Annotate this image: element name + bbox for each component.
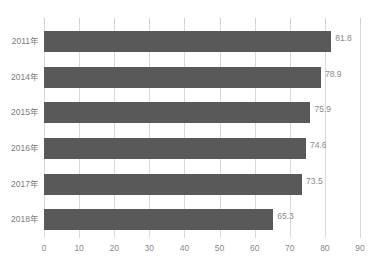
tick-mark — [360, 18, 361, 24]
y-axis-label: 2017年 — [0, 179, 39, 189]
bar[interactable] — [44, 102, 310, 123]
bar-value-label: 81.8 — [335, 33, 352, 43]
x-axis-label: 90 — [345, 243, 371, 253]
x-axis-label: 70 — [275, 243, 305, 253]
bar[interactable] — [44, 31, 331, 52]
y-axis-label: 2014年 — [0, 72, 39, 82]
x-axis-label: 10 — [64, 243, 94, 253]
x-axis-label: 80 — [310, 243, 340, 253]
bar[interactable] — [44, 174, 302, 195]
bar-row: 78.9 — [44, 60, 360, 96]
bar-value-label: 65.3 — [277, 211, 294, 221]
y-axis-label: 2011年 — [0, 36, 39, 46]
bar[interactable] — [44, 138, 306, 159]
y-axis-label: 2016年 — [0, 143, 39, 153]
y-axis-label: 2018年 — [0, 214, 39, 224]
bar-row: 65.3 — [44, 202, 360, 238]
x-axis-label: 20 — [99, 243, 129, 253]
bar[interactable] — [44, 67, 321, 88]
bar-value-label: 78.9 — [325, 69, 342, 79]
x-axis-label: 60 — [240, 243, 270, 253]
bar-value-label: 73.5 — [306, 176, 323, 186]
bar-chart: 81.878.975.974.673.565.3 2011年2014年2015年… — [0, 0, 371, 276]
bar-value-label: 74.6 — [310, 140, 327, 150]
plot-area: 81.878.975.974.673.565.3 — [44, 24, 360, 238]
bar-row: 75.9 — [44, 95, 360, 131]
y-axis-label: 2015年 — [0, 107, 39, 117]
x-axis-label: 50 — [205, 243, 235, 253]
bar-row: 81.8 — [44, 24, 360, 60]
x-axis-label: 0 — [29, 243, 59, 253]
bar[interactable] — [44, 209, 273, 230]
bar-value-label: 75.9 — [314, 104, 331, 114]
bar-row: 73.5 — [44, 167, 360, 203]
x-axis-label: 30 — [134, 243, 164, 253]
bar-row: 74.6 — [44, 131, 360, 167]
gridline — [360, 24, 361, 238]
x-axis-label: 40 — [169, 243, 199, 253]
